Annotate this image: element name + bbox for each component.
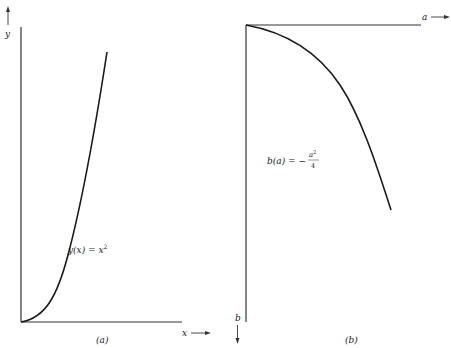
- svg-text:a2: a2: [309, 149, 316, 159]
- panel-b: a b b(a) = − a2 4 (b): [235, 12, 450, 345]
- b-arrowhead-icon: [236, 338, 240, 344]
- caption-a: (a): [96, 335, 109, 345]
- caption-b: (b): [345, 335, 358, 345]
- a-axis-label: a: [422, 12, 427, 22]
- curve-label-a: y(x) = x2: [67, 243, 108, 255]
- y-axis-label: y: [4, 29, 11, 39]
- panel-a: y x y(x) = x2 (a): [4, 6, 211, 345]
- figure: y x y(x) = x2 (a) a b b(a) = − a2 4 (b): [0, 0, 451, 348]
- a-arrowhead-icon: [444, 15, 450, 19]
- downward-parabola-curve: [246, 25, 391, 210]
- b-axis-label: b: [235, 313, 241, 323]
- curve-label-b: b(a) = − a2 4: [267, 149, 319, 170]
- parabola-curve: [21, 52, 107, 322]
- x-arrowhead-icon: [205, 331, 211, 335]
- y-arrowhead-icon: [6, 6, 10, 12]
- svg-text:b(a) = −: b(a) = −: [267, 156, 306, 166]
- x-axis-label: x: [182, 328, 187, 338]
- svg-text:4: 4: [311, 162, 315, 170]
